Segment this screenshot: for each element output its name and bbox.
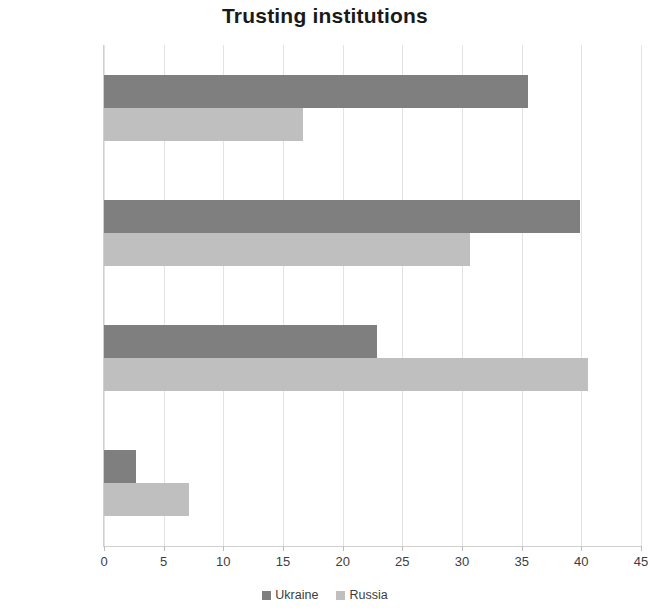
gridline: [402, 45, 403, 546]
x-tick-mark: [343, 546, 344, 551]
x-tick-mark: [283, 546, 284, 551]
gridline: [343, 45, 344, 546]
x-tick-mark: [522, 546, 523, 551]
x-tick-mark: [164, 546, 165, 551]
legend-swatch-icon: [262, 591, 271, 600]
x-tick-mark: [104, 546, 105, 551]
x-tick-mark: [462, 546, 463, 551]
x-tick-label: 10: [203, 554, 243, 569]
x-tick-label: 25: [382, 554, 422, 569]
legend-label: Russia: [349, 588, 387, 602]
x-tick-mark: [223, 546, 224, 551]
chart-title: Trusting institutions: [0, 4, 650, 28]
bar-russia-none-at-all: [104, 108, 303, 141]
legend-item-ukraine[interactable]: Ukraine: [262, 588, 318, 602]
x-tick-label: 0: [84, 554, 124, 569]
bar-ukraine-quite-a-lot: [104, 325, 377, 358]
bar-ukraine-none-at-all: [104, 75, 528, 108]
x-tick-label: 30: [442, 554, 482, 569]
bar-ukraine-a-great-deal: [104, 450, 136, 483]
gridline: [581, 45, 582, 546]
plot-area: 051015202530354045 None at allNot very m…: [103, 45, 641, 547]
x-tick-label: 5: [144, 554, 184, 569]
x-tick-label: 15: [263, 554, 303, 569]
legend-item-russia[interactable]: Russia: [336, 588, 387, 602]
x-tick-mark: [581, 546, 582, 551]
legend-swatch-icon: [336, 591, 345, 600]
x-tick-label: 45: [621, 554, 650, 569]
bar-russia-quite-a-lot: [104, 358, 588, 391]
bar-russia-not-very-much: [104, 233, 470, 266]
x-tick-label: 20: [323, 554, 363, 569]
chart-legend: UkraineRussia: [0, 588, 650, 602]
gridline: [641, 45, 642, 546]
bar-ukraine-not-very-much: [104, 200, 580, 233]
legend-label: Ukraine: [275, 588, 318, 602]
x-tick-label: 40: [561, 554, 601, 569]
bar-chart: Trusting institutions 051015202530354045…: [0, 0, 650, 611]
x-tick-mark: [641, 546, 642, 551]
gridline: [462, 45, 463, 546]
x-tick-mark: [402, 546, 403, 551]
bar-russia-a-great-deal: [104, 483, 189, 516]
x-tick-label: 35: [502, 554, 542, 569]
gridline: [522, 45, 523, 546]
